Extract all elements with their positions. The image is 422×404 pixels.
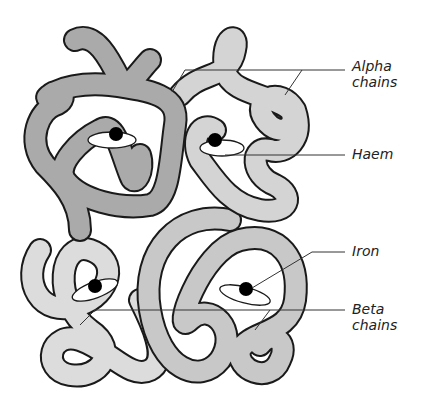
beta-label-line2: chains <box>352 317 397 333</box>
alpha-chain-right <box>180 38 298 210</box>
beta-label-line1: Beta <box>352 301 397 317</box>
iron-atom-top-left <box>109 127 123 141</box>
iron-atom-bottom-right <box>239 282 253 296</box>
beta-chains-label: Beta chains <box>352 301 397 333</box>
alpha-label-line1: Alpha <box>352 58 397 74</box>
alpha-label-line2: chains <box>352 74 397 90</box>
iron-label: Iron <box>352 243 379 259</box>
iron-atom-top-right <box>208 133 222 147</box>
haem-label: Haem <box>352 146 393 162</box>
alpha-chains-label: Alpha chains <box>352 58 397 90</box>
haem-group-bottom-right <box>218 281 272 310</box>
iron-atom-bottom-left <box>88 279 102 293</box>
beta-chain-right <box>148 218 295 373</box>
